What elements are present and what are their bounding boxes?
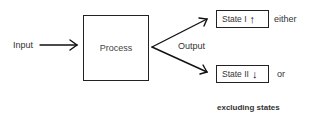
process-label: Process xyxy=(100,43,133,53)
state-1-box: State I ↑ xyxy=(216,10,269,28)
input-arrow-icon xyxy=(40,40,77,50)
process-box: Process xyxy=(83,15,149,81)
state-2-label: State II xyxy=(222,69,249,79)
footer-note: excluding states xyxy=(217,103,280,113)
state-2-box: State II ↓ xyxy=(216,65,269,83)
state-2-suffix: or xyxy=(277,69,285,79)
up-arrow-icon: ↑ xyxy=(250,13,256,25)
input-label: Input xyxy=(13,40,33,50)
output-label: Output xyxy=(178,41,205,51)
state-1-label: State I xyxy=(222,14,247,24)
state-1-suffix: either xyxy=(274,14,297,24)
down-arrow-icon: ↓ xyxy=(252,68,258,80)
